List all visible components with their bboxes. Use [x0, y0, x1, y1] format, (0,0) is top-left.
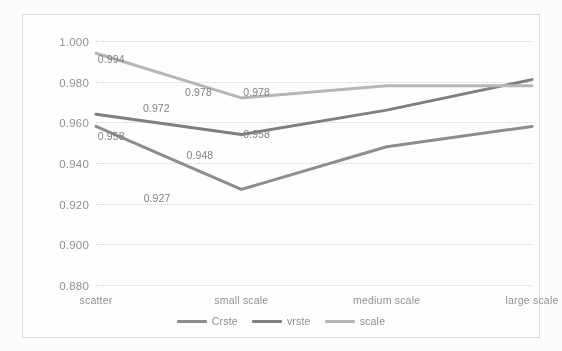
data-value-label: 0.958: [243, 128, 270, 140]
data-value-label: 0.978: [185, 86, 212, 98]
y-axis-tick-label: 0.940: [59, 158, 89, 170]
data-value-label: 0.972: [143, 102, 170, 114]
legend-swatch-icon: [177, 320, 207, 323]
y-axis-tick-label: 0.900: [59, 239, 89, 251]
y-axis-tick-label: 0.880: [59, 280, 89, 292]
legend-swatch-icon: [325, 320, 355, 323]
x-axis-category-label: small scale: [214, 294, 268, 306]
y-axis-tick-label: 0.980: [59, 77, 89, 89]
legend-item-scale[interactable]: scale: [325, 315, 386, 327]
x-axis-category-label: large scale: [506, 294, 559, 306]
y-axis-tick-label: 0.960: [59, 117, 89, 129]
chart-legend: Crstevrstescale: [23, 315, 539, 327]
gridline: 0.880: [96, 285, 532, 286]
y-axis-tick-label: 0.920: [59, 199, 89, 211]
data-value-label: 0.978: [243, 86, 270, 98]
x-axis-category-label: medium scale: [353, 294, 420, 306]
series-line-crste: [96, 126, 532, 189]
series-line-scale: [96, 53, 532, 98]
legend-item-crste[interactable]: Crste: [177, 315, 238, 327]
legend-item-vrste[interactable]: vrste: [252, 315, 311, 327]
chart-page: 0.8800.9000.9200.9400.9600.9801.000 scat…: [0, 0, 562, 351]
legend-swatch-icon: [252, 320, 282, 323]
series-lines: [96, 41, 532, 285]
data-value-label: 0.958: [98, 130, 125, 142]
y-axis-tick-label: 1.000: [59, 36, 89, 48]
legend-label: vrste: [287, 315, 311, 327]
chart-frame: 0.8800.9000.9200.9400.9600.9801.000 scat…: [22, 14, 540, 338]
x-axis-category-label: scatter: [80, 294, 113, 306]
data-value-label: 0.994: [98, 53, 125, 65]
data-value-label: 0.927: [144, 192, 171, 204]
data-value-label: 0.948: [187, 149, 214, 161]
legend-label: scale: [360, 315, 386, 327]
legend-label: Crste: [212, 315, 238, 327]
plot-area: 0.8800.9000.9200.9400.9600.9801.000 scat…: [96, 41, 532, 285]
